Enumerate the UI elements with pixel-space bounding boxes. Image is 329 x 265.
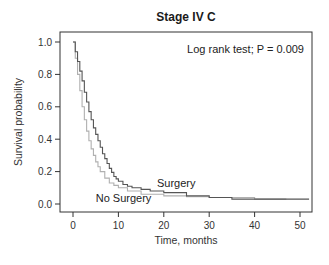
curve-no-surgery — [73, 42, 286, 199]
y-tick-label: 0.6 — [38, 101, 52, 112]
km-chart: Stage IV C 0.00.20.40.60.81.0 0102030405… — [0, 0, 329, 265]
y-tick-label: 0.2 — [38, 166, 52, 177]
chart-title: Stage IV C — [156, 10, 216, 24]
x-tick-label: 0 — [70, 220, 76, 231]
log-rank-annotation: Log rank test; P = 0.009 — [187, 43, 304, 55]
x-axis: 01020304050 — [70, 212, 306, 231]
label-no-surgery: No Surgery — [96, 192, 152, 204]
y-tick-label: 0.4 — [38, 134, 52, 145]
x-tick-label: 50 — [294, 220, 306, 231]
y-tick-label: 1.0 — [38, 37, 52, 48]
x-tick-label: 40 — [249, 220, 261, 231]
survival-curves — [73, 42, 309, 199]
x-tick-label: 30 — [204, 220, 216, 231]
x-tick-label: 10 — [113, 220, 125, 231]
x-axis-label: Time, months — [154, 234, 217, 246]
label-surgery: Surgery — [157, 177, 196, 189]
y-axis-label: Survival probability — [12, 77, 24, 166]
y-tick-label: 0.8 — [38, 69, 52, 80]
y-tick-label: 0.0 — [38, 199, 52, 210]
y-axis: 0.00.20.40.60.81.0 — [38, 37, 60, 210]
series-labels: No SurgerySurgery — [96, 177, 196, 204]
curve-surgery — [73, 42, 309, 199]
x-tick-label: 20 — [158, 220, 170, 231]
